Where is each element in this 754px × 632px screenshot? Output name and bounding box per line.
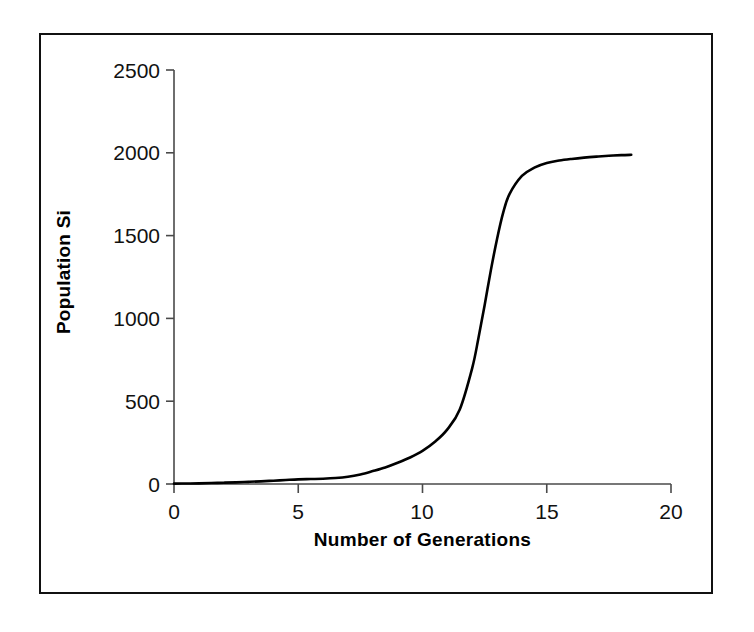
y-tick-label-500: 500	[60, 391, 160, 412]
y-axis-title-text: Population Si	[53, 210, 75, 334]
x-axis-title: Number of Generations	[174, 529, 671, 551]
x-tick-label-20: 20	[641, 501, 701, 522]
y-tick-label-2000: 2000	[60, 142, 160, 163]
x-tick-label-15: 15	[517, 501, 577, 522]
data-series-line	[174, 155, 631, 484]
figure-root: 2500 2000 1500 1000 500 0 0 5 10 15 20 P…	[0, 0, 754, 632]
y-axis-title: Population Si	[47, 182, 81, 362]
x-tick-label-10: 10	[392, 501, 452, 522]
x-axis-ticks	[174, 484, 671, 493]
x-tick-label-5: 5	[268, 501, 328, 522]
y-axis-ticks	[166, 70, 174, 484]
y-tick-label-0: 0	[60, 474, 160, 495]
y-tick-label-2500: 2500	[60, 60, 160, 81]
x-tick-label-0: 0	[144, 501, 204, 522]
